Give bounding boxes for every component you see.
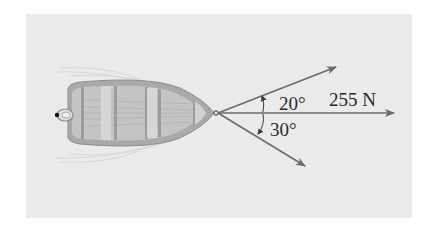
boat-seat xyxy=(158,89,161,137)
rope-upper-arrow xyxy=(218,67,336,113)
angle-arcs xyxy=(258,96,264,134)
boat-seat xyxy=(81,87,84,139)
lower-angle-label: 30° xyxy=(270,120,297,139)
upper-angle-label: 20° xyxy=(279,94,306,113)
angle-arc-30 xyxy=(258,114,263,134)
rowboat xyxy=(55,80,218,146)
boat-seat xyxy=(101,86,111,140)
boat-force-diagram xyxy=(0,0,429,228)
resultant-force-label: 255 N xyxy=(329,90,376,109)
force-vectors xyxy=(218,67,394,166)
boat-seat xyxy=(193,100,195,126)
angle-arc-20 xyxy=(262,96,264,112)
boat-seat xyxy=(147,88,157,138)
boat-seat xyxy=(114,86,117,140)
